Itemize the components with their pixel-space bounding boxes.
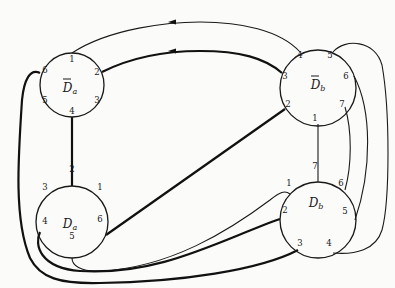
- port-3: 3: [94, 95, 99, 105]
- node-dbar-a[interactable]: Da 1 2 3 4 5 6: [40, 53, 104, 117]
- node-label: Db: [308, 196, 324, 211]
- port-6: 6: [338, 178, 343, 188]
- port-7: 7: [339, 99, 344, 109]
- port-6: 6: [343, 71, 348, 81]
- port-1: 1: [69, 54, 74, 64]
- port-6: 6: [42, 65, 47, 75]
- edge-dbarb5-db4: [333, 43, 388, 253]
- port-5: 5: [327, 50, 332, 60]
- edge-dbarb2-da6: [106, 109, 285, 235]
- node-dbar-b[interactable]: Db 1 2 3 4 5 6 7: [280, 50, 356, 126]
- edge-dbara6-db3: [18, 72, 298, 283]
- port-1: 1: [97, 182, 102, 192]
- port-5: 5: [69, 231, 74, 241]
- port-2: 2: [94, 67, 99, 77]
- port-5: 5: [42, 95, 47, 105]
- node-circle: [280, 182, 356, 258]
- port-4: 4: [326, 238, 331, 248]
- port-3: 3: [297, 238, 302, 248]
- port-4: 4: [69, 106, 74, 116]
- port-3: 3: [42, 182, 47, 192]
- port-2: 2: [282, 205, 287, 215]
- port-6: 6: [97, 214, 102, 224]
- node-label: Da: [62, 217, 78, 232]
- node-label: Da: [62, 81, 78, 96]
- port-1: 1: [312, 113, 317, 123]
- port-2: 2: [69, 164, 74, 174]
- port-5: 5: [342, 206, 347, 216]
- diagram-canvas: Da 1 2 3 4 5 6 Db 1 2 3 4 5 6 7 Da 1 2 3…: [0, 0, 395, 288]
- port-4: 4: [42, 216, 47, 226]
- port-1: 1: [286, 178, 291, 188]
- edge-dbarb4-dbara1: [72, 22, 300, 53]
- port-4: 4: [297, 50, 302, 60]
- edge-dbarb7-db6: [345, 107, 350, 190]
- node-label: Db: [310, 78, 326, 93]
- port-2: 2: [285, 99, 290, 109]
- edge-dbarb6-db5: [354, 76, 368, 220]
- edge-dbarb3-dbara2: [102, 51, 282, 73]
- edge-da5-db1: [72, 192, 290, 271]
- port-7: 7: [312, 161, 317, 171]
- port-3: 3: [282, 71, 287, 81]
